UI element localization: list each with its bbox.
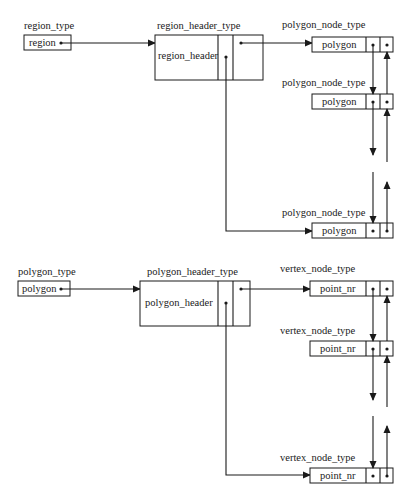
region-header-field: region_header: [158, 50, 219, 61]
vertex-node-3: vertex_node_type point_nr: [280, 452, 393, 483]
polygon-node-field: polygon: [322, 39, 357, 50]
vertex-node-type-label: vertex_node_type: [280, 452, 356, 463]
region-type-label: region_type: [24, 20, 74, 31]
prev-pointer-dot: [385, 347, 388, 350]
prev-pointer-dot: [385, 43, 388, 46]
region-header-record: region_header_type region_header: [155, 20, 263, 80]
polygon-field: polygon: [22, 283, 57, 294]
region-header-type-label: region_header_type: [157, 20, 241, 31]
polygon-node-type-label: polygon_node_type: [282, 19, 366, 30]
polygon-type-record: polygon_type polygon: [18, 266, 76, 296]
polygon-header-record: polygon_header_type polygon_header: [140, 266, 250, 326]
vertex-node-field: point_nr: [320, 470, 356, 481]
polygon-node-field: polygon: [322, 96, 357, 107]
prev-pointer-dot: [385, 287, 388, 290]
vertex-node-type-label: vertex_node_type: [280, 325, 356, 336]
polygon-node-type-label: polygon_node_type: [282, 77, 366, 88]
next-pointer-dot: [371, 474, 374, 477]
vertex-node-2: vertex_node_type point_nr: [280, 325, 393, 356]
polygon-header-type-label: polygon_header_type: [147, 266, 238, 277]
linked-structure-diagram: region_type region region_header_type re…: [0, 0, 417, 499]
polygon-node-field: polygon: [322, 225, 357, 236]
polygon-type-label: polygon_type: [18, 266, 76, 277]
vertex-node-field: point_nr: [320, 343, 356, 354]
vertex-node-field: point_nr: [320, 283, 356, 294]
vertex-node-type-label: vertex_node_type: [280, 263, 356, 274]
polygon-header-field: polygon_header: [145, 297, 213, 308]
region-section: region_type region region_header_type re…: [24, 19, 393, 238]
next-pointer-dot: [371, 229, 374, 232]
prev-pointer-dot: [385, 100, 388, 103]
region-type-record: region_type region: [24, 20, 74, 50]
polygon-section: polygon_type polygon polygon_header_type…: [18, 263, 393, 483]
polygon-node-1: polygon_node_type polygon: [282, 19, 393, 52]
region-field: region: [29, 37, 57, 48]
polygon-node-3: polygon_node_type polygon: [282, 207, 393, 238]
polygon-node-type-label: polygon_node_type: [282, 207, 366, 218]
vertex-node-1: vertex_node_type point_nr: [280, 263, 393, 296]
polygon-node-2: polygon_node_type polygon: [282, 77, 393, 109]
